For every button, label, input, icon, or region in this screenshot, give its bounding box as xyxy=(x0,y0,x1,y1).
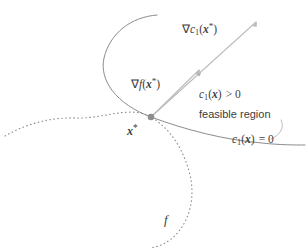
relation-operator: > 0 xyxy=(226,88,241,100)
constrained-optimization-diagram: ∇c1(x*) ∇f(x*) c1(x)> 0 feasible region … xyxy=(0,0,307,252)
solution-point-label: x* xyxy=(127,124,138,137)
paren-close: ) xyxy=(251,133,255,145)
nabla-symbol-c1: ∇ xyxy=(182,23,190,35)
constraint-zero-label: c1(x)= 0 xyxy=(232,134,274,148)
star-superscript: * xyxy=(133,123,138,133)
solution-point-marker xyxy=(148,114,155,121)
paren-close: ) xyxy=(156,78,160,90)
constraint-positive-label: c1(x)> 0 xyxy=(199,89,241,103)
nabla-symbol-f: ∇ xyxy=(131,78,139,90)
gradient-f-arrowhead xyxy=(195,69,200,75)
paren-close: ) xyxy=(218,88,222,100)
paren-close: ) xyxy=(213,23,217,35)
gradient-c1-label: ∇c1(x*) xyxy=(182,22,217,37)
objective-contour-curve xyxy=(5,112,192,248)
diagram-canvas xyxy=(0,0,307,252)
gradient-f-label: ∇f(x*) xyxy=(131,77,160,90)
feasible-region-label: feasible region xyxy=(199,109,271,120)
f-function-symbol: f xyxy=(164,212,168,227)
objective-curve-label: f xyxy=(164,213,168,226)
relation-operator: = 0 xyxy=(259,133,274,145)
